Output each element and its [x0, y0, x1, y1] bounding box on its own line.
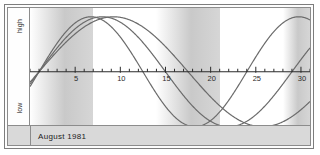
plot-area: 51015202530: [30, 8, 310, 125]
x-axis-tick-label: 5: [74, 74, 78, 83]
footer-bar: August 1981: [8, 125, 310, 145]
biorhythm-chart-frame: high low 51015202530 August 1981: [4, 4, 314, 149]
period-label: August 1981: [38, 131, 86, 140]
curve-emotional: [30, 17, 310, 125]
x-axis-tick-label: 15: [162, 74, 170, 83]
x-axis-tick-label: 30: [298, 74, 306, 83]
y-axis-low-label: low: [15, 102, 22, 113]
curve-intellectual: [30, 17, 310, 125]
footer-divider: [30, 126, 31, 145]
biorhythm-curves: 51015202530: [30, 8, 310, 125]
y-axis-high-label: high: [15, 19, 22, 33]
x-axis-tick-label: 20: [207, 74, 215, 83]
curve-physical: [30, 17, 310, 125]
x-axis-tick-label: 25: [253, 74, 261, 83]
chart-inner: high low 51015202530 August 1981: [7, 7, 311, 146]
x-axis-tick-label: 10: [117, 74, 125, 83]
